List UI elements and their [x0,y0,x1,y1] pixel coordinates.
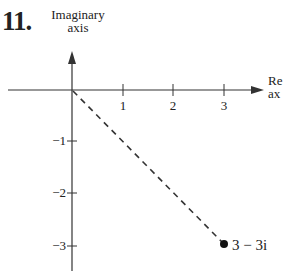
data-point [220,240,228,248]
x-tick-label: 2 [170,98,177,113]
y-tick-label: −3 [52,238,66,253]
y-tick-label: −1 [52,133,66,148]
x-ticks: 1 2 3 [120,84,228,113]
x-tick-label: 3 [221,98,228,113]
y-axis-arrow-icon [68,51,76,64]
x-axis-arrow-icon [251,86,264,94]
y-tick-label: −2 [52,185,66,200]
y-ticks: −1 −2 −3 [52,133,77,253]
x-tick-label: 1 [120,98,127,113]
dashed-segment [73,91,222,242]
complex-plane-plot: 1 2 3 −1 −2 −3 3 − 3i [0,0,283,271]
point-label: 3 − 3i [232,237,267,253]
